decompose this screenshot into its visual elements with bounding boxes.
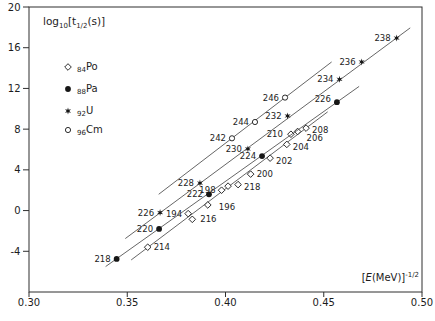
y-tick-label: 20 — [8, 2, 21, 13]
point-label-92U-230: 230 — [226, 144, 242, 154]
circle-open-icon — [65, 127, 70, 132]
point-label-84Po-196: 196 — [219, 202, 235, 212]
point-88Pa-224 — [259, 153, 265, 159]
point-label-84Po-214: 214 — [154, 242, 170, 252]
point-96Cm-246 — [282, 95, 287, 100]
y-tick-label: 8 — [14, 124, 20, 135]
y-tick-label: 12 — [8, 83, 21, 94]
y-tick-label: 4 — [14, 164, 20, 175]
point-88Pa-220 — [156, 226, 162, 232]
point-label-92U-236: 236 — [339, 57, 355, 67]
geiger-nuttall-chart: -40481216200.300.350.400.450.50194196198… — [0, 0, 435, 321]
point-label-88Pa-226: 226 — [315, 94, 331, 104]
y-tick-label: -4 — [11, 246, 21, 257]
point-label-96Cm-246: 246 — [263, 93, 279, 103]
point-label-84Po-200: 200 — [257, 169, 273, 179]
point-label-92U-226: 226 — [138, 208, 154, 218]
point-label-96Cm-244: 244 — [233, 117, 249, 127]
point-88Pa-226 — [334, 99, 340, 105]
point-label-92U-238: 238 — [374, 33, 390, 43]
x-tick-label: 0.30 — [18, 297, 40, 308]
point-label-96Cm-242: 242 — [210, 133, 226, 143]
point-label-84Po-216: 216 — [200, 214, 216, 224]
x-tick-label: 0.35 — [116, 297, 138, 308]
x-tick-label: 0.40 — [214, 297, 236, 308]
plot-area: -40481216200.300.350.400.450.50194196198… — [0, 0, 435, 321]
y-tick-label: 16 — [8, 42, 21, 53]
point-label-88Pa-220: 220 — [137, 224, 153, 234]
point-label-88Pa-224: 224 — [240, 151, 256, 161]
point-label-84Po-204: 204 — [293, 142, 309, 152]
point-label-84Po-210: 210 — [267, 129, 283, 139]
point-label-84Po-208: 208 — [312, 125, 328, 135]
point-96Cm-242 — [229, 136, 234, 141]
point-label-92U-232: 232 — [265, 111, 281, 121]
point-96Cm-244 — [252, 119, 257, 124]
point-label-92U-234: 234 — [317, 74, 333, 84]
point-88Pa-222 — [206, 191, 212, 197]
point-label-84Po-202: 202 — [276, 156, 292, 166]
point-label-84Po-218: 218 — [244, 182, 260, 192]
point-label-92U-228: 228 — [178, 178, 194, 188]
circle-filled-icon — [65, 86, 71, 92]
y-tick-label: 0 — [14, 205, 20, 216]
x-tick-label: 0.50 — [411, 297, 433, 308]
point-label-88Pa-218: 218 — [94, 254, 110, 264]
point-88Pa-218 — [114, 256, 120, 262]
x-tick-label: 0.45 — [313, 297, 335, 308]
